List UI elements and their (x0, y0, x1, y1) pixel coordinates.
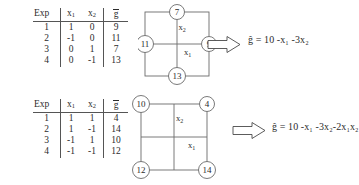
cell-g: 7 (104, 44, 129, 55)
design-panel-full-factorial: Exp x1 x2 g 1 1 1 4 2 1 -1 14 3 -1 1 (0, 91, 350, 183)
axis-label-x2: x2 (179, 22, 186, 33)
cell-x2: 1 (81, 135, 104, 146)
block-arrow-right-icon (232, 121, 266, 144)
design-node-top-right-label: 4 (205, 99, 210, 109)
column-header-g-bar: g (104, 99, 129, 113)
design-node-left-label: 11 (141, 39, 150, 49)
cell-x1: 1 (61, 124, 82, 135)
cell-x1: -1 (61, 147, 82, 158)
cell-x2: 0 (81, 33, 104, 44)
cell-x1: -1 (61, 33, 82, 44)
cell-exp: 1 (33, 113, 61, 125)
column-header-exp: Exp (33, 8, 61, 22)
table-header: Exp x1 x2 g (33, 99, 128, 113)
doe-table-1: Exp x1 x2 g 1 1 0 9 2 -1 0 11 3 0 1 (33, 8, 128, 67)
column-header-x2: x2 (81, 99, 104, 113)
cell-exp: 1 (33, 22, 61, 34)
cell-x1: -1 (61, 135, 82, 146)
cell-x2: 1 (81, 113, 104, 125)
design-node-bottom-label: 13 (173, 71, 183, 81)
design-node-bottom-right-label: 14 (203, 165, 213, 175)
design-node-top-left-label: 10 (137, 99, 147, 109)
cell-exp: 3 (33, 135, 61, 146)
column-header-exp: Exp (33, 99, 61, 113)
table-body: 1 1 0 9 2 -1 0 11 3 0 1 7 4 0 -1 13 (33, 22, 128, 67)
cell-x2: 0 (81, 22, 104, 34)
doe-table-2: Exp x1 x2 g 1 1 1 4 2 1 -1 14 3 -1 1 (33, 99, 128, 158)
cell-exp: 4 (33, 147, 61, 158)
cell-g: 14 (104, 124, 129, 135)
table-row: 3 0 1 7 (33, 44, 128, 55)
cell-g: 9 (104, 22, 129, 34)
cell-exp: 4 (33, 56, 61, 67)
column-header-x1: x1 (61, 99, 82, 113)
g-bar-symbol: g (114, 9, 119, 20)
cell-x1: 0 (61, 56, 82, 67)
cell-g: 13 (104, 56, 129, 67)
design-node-top-label: 7 (175, 7, 180, 17)
axis-label-x1: x1 (188, 140, 195, 151)
model-equation-2: ĝ = 10 -x₁ -3x₂-2x₁x₂ (272, 121, 359, 132)
design-node-bottom-left-label: 12 (137, 165, 146, 175)
cell-x1: 1 (61, 22, 82, 34)
cell-exp: 3 (33, 44, 61, 55)
table-body: 1 1 1 4 2 1 -1 14 3 -1 1 10 4 -1 -1 12 (33, 113, 128, 158)
cell-exp: 2 (33, 124, 61, 135)
table-row: 2 1 -1 14 (33, 124, 128, 135)
cell-g: 10 (104, 135, 129, 146)
cell-g: 12 (104, 147, 129, 158)
design-diagram-star: x2 x1 7 11 9 13 (138, 4, 216, 86)
column-header-x2: x2 (81, 8, 104, 22)
axis-label-x1: x1 (184, 47, 191, 58)
cell-x2: -1 (81, 147, 104, 158)
table-header: Exp x1 x2 g (33, 8, 128, 22)
cell-x2: -1 (81, 124, 104, 135)
design-panel-face-centered: Exp x1 x2 g 1 1 0 9 2 -1 0 11 3 0 1 (0, 0, 350, 92)
g-bar-symbol: g (114, 100, 119, 111)
cell-x1: 1 (61, 113, 82, 125)
cell-x2: 1 (81, 44, 104, 55)
block-arrow-right-icon (207, 35, 241, 58)
cell-g: 4 (104, 113, 129, 125)
table-row: 4 -1 -1 12 (33, 147, 128, 158)
model-equation-1: ĝ = 10 -x₁ -3x₂ (248, 34, 309, 45)
table-row: 3 -1 1 10 (33, 135, 128, 146)
table-row: 1 1 0 9 (33, 22, 128, 34)
cell-x1: 0 (61, 44, 82, 55)
cell-x2: -1 (81, 56, 104, 67)
cell-exp: 2 (33, 33, 61, 44)
design-diagram-square: x2 x1 10 4 12 14 (132, 95, 216, 179)
table-row: 1 1 1 4 (33, 113, 128, 125)
axis-label-x2: x2 (176, 113, 183, 124)
cell-g: 11 (104, 33, 129, 44)
column-header-x1: x1 (61, 8, 82, 22)
table-row: 2 -1 0 11 (33, 33, 128, 44)
column-header-g-bar: g (104, 8, 129, 22)
table-row: 4 0 -1 13 (33, 56, 128, 67)
